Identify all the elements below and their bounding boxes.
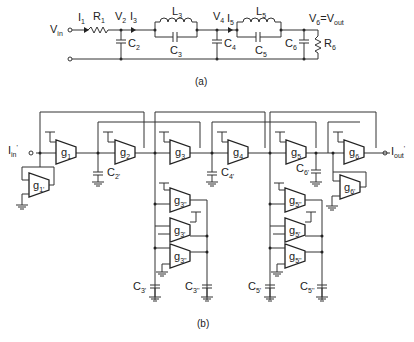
- resistor-r1: [88, 27, 108, 33]
- ota-g4: g4: [217, 132, 248, 164]
- ota-g3: g3: [159, 132, 190, 164]
- svg-text:C4': C4': [221, 166, 234, 180]
- i3-label: I3: [130, 10, 137, 24]
- resistor-r6: [315, 36, 321, 53]
- svg-text:C5'': C5'': [300, 280, 315, 294]
- svg-text:C3'': C3'': [185, 280, 200, 294]
- ota-g2: g2: [103, 132, 135, 164]
- caption-a: (a): [195, 76, 207, 87]
- ground-terminal: [68, 57, 72, 61]
- vout-label: V6=Vout: [309, 12, 344, 26]
- c2-label: C2: [128, 37, 140, 51]
- v2-label: V2: [115, 10, 126, 24]
- circuit-diagram: Vin I1 R1 V2 I3 C2 L3 C3: [0, 0, 414, 342]
- ota-g6: g6: [333, 132, 364, 164]
- ota-g5-double-prime-bottom: g5'': [270, 244, 322, 276]
- l3-label: L3: [172, 5, 182, 19]
- c3-label: C3: [170, 44, 182, 58]
- capacitor-c3-double-prime: C3'': [185, 280, 213, 301]
- r6-label: R6: [324, 37, 336, 51]
- inductor-l3: [160, 18, 192, 22]
- ota-g3-prime: g3': [155, 212, 207, 242]
- ota-g5-double-prime-top: g5'': [270, 183, 322, 212]
- ladder-filter-schematic: Vin I1 R1 V2 I3 C2 L3 C3: [50, 5, 344, 87]
- v4-label: V4: [213, 10, 224, 24]
- input-terminal: [68, 28, 72, 32]
- capacitor-c5-prime: C5': [248, 280, 276, 301]
- ota-g1-prime: g1': [16, 153, 54, 209]
- iout-label: Iout': [391, 145, 405, 159]
- ota-g1: g1: [45, 132, 76, 164]
- svg-text:C5': C5': [248, 280, 261, 294]
- gyrator-3: g3'' g3' g3'': [133, 153, 213, 301]
- capacitor-c3-prime: C3': [133, 280, 161, 301]
- svg-text:C6': C6': [296, 162, 309, 176]
- ota-g5: g5: [275, 132, 306, 164]
- c4-label: C4: [224, 37, 236, 51]
- r1-label: R1: [93, 10, 105, 24]
- input-terminal-b: [29, 151, 33, 155]
- svg-text:C2': C2': [107, 166, 120, 180]
- c6-label: C6: [285, 37, 297, 51]
- ota-g5-prime: g5': [270, 212, 322, 242]
- caption-b: (b): [197, 318, 209, 329]
- i5-label: I5: [227, 12, 234, 26]
- ota-g3-double-prime-bottom: g3'': [155, 244, 207, 276]
- c5-label: C5: [255, 44, 267, 58]
- capacitor-c5-double-prime: C5'': [300, 280, 328, 301]
- inductor-l5: [243, 18, 275, 22]
- iin-label: Iin': [8, 144, 18, 158]
- l5-label: L5: [256, 5, 266, 19]
- vin-label: Vin: [50, 23, 63, 37]
- svg-text:C3': C3': [133, 280, 146, 294]
- ota-c-filter-schematic: Iin' Iout' g1 g2 g3 g4 g5: [8, 112, 405, 329]
- ota-g3-double-prime-top: g3'': [155, 183, 207, 212]
- i1-label: I1: [78, 11, 85, 25]
